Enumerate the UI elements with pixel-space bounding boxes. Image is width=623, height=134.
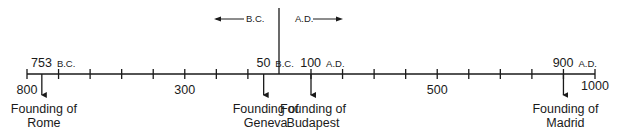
event-caption-line2: Budapest	[268, 116, 358, 130]
ad-direction-label: A.D.	[295, 14, 313, 24]
event-year-label: 900A.D.	[553, 57, 597, 70]
axis-label: 500	[427, 84, 448, 97]
event-era: A.D.	[326, 58, 344, 69]
event-year-label: 50B.C.	[256, 57, 293, 70]
event-caption-line2: Rome	[0, 116, 89, 130]
event-year-number: 753	[31, 56, 52, 70]
axis-label: 800	[17, 84, 38, 97]
event-caption: Founding ofBudapest	[268, 102, 358, 130]
event-era: B.C.	[275, 58, 293, 69]
event-year-number: 900	[553, 56, 574, 70]
event-caption-line1: Founding of	[520, 102, 610, 116]
event-year-label: 753B.C.	[31, 57, 75, 70]
event-year-label: 100A.D.	[300, 57, 344, 70]
event-year-number: 100	[300, 56, 321, 70]
event-caption: Founding ofRome	[0, 102, 89, 130]
event-caption-line2: Madrid	[520, 116, 610, 130]
event-year-number: 50	[256, 56, 270, 70]
event-era: B.C.	[57, 58, 75, 69]
axis-label: 300	[174, 84, 195, 97]
axis-label: 1000	[581, 80, 609, 93]
event-era: A.D.	[579, 58, 597, 69]
event-caption-line1: Founding of	[0, 102, 89, 116]
event-caption: Founding ofMadrid	[520, 102, 610, 130]
bc-direction-label: B.C.	[246, 14, 264, 24]
bc-direction-arrow	[214, 17, 244, 22]
ad-direction-arrow	[313, 17, 343, 22]
event-caption-line1: Founding of	[268, 102, 358, 116]
